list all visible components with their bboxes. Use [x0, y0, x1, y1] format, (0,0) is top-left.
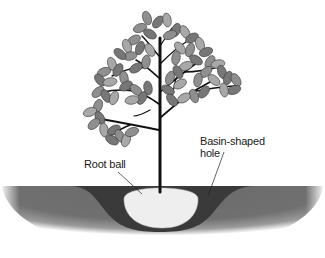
tree-planting-diagram — [0, 0, 325, 258]
basin-label-line2: hole — [200, 147, 265, 159]
basin-label-line1: Basin-shaped — [200, 135, 265, 147]
basin-hole-label: Basin-shaped hole — [200, 135, 265, 159]
tree-leaves — [82, 10, 243, 148]
root-ball-label-text: Root ball — [84, 158, 126, 170]
root-ball-label: Root ball — [84, 158, 126, 170]
